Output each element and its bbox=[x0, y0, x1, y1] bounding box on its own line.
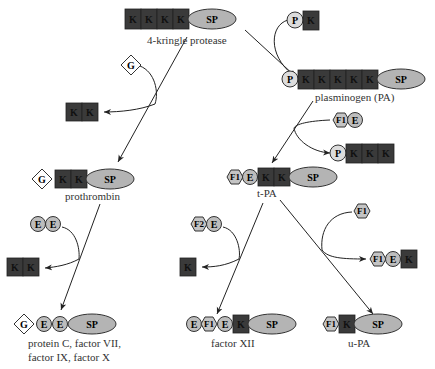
loss-arrow-k bbox=[202, 259, 239, 267]
loss-arrow-f1ek bbox=[322, 250, 366, 259]
kringle-letter: K bbox=[177, 14, 185, 25]
kringle-letter: K bbox=[27, 262, 35, 273]
module-insert-pk: P K bbox=[287, 11, 319, 30]
sp-letter: SP bbox=[104, 174, 116, 185]
connectors bbox=[45, 20, 373, 314]
label-t-pa: t-PA bbox=[257, 187, 277, 199]
module-insert-ee: E E bbox=[31, 217, 61, 232]
sp-letter: SP bbox=[206, 14, 218, 25]
arrow-4kringle-to-plasminogen bbox=[245, 30, 296, 77]
arrow-tpa-to-factor12 bbox=[217, 203, 263, 314]
kringle-letter: K bbox=[350, 74, 358, 85]
kringle-letter: K bbox=[86, 107, 94, 118]
kringle-letter: K bbox=[366, 148, 374, 159]
kringle-letter: K bbox=[343, 319, 351, 330]
label-4-kringle-protease: 4-kringle protease bbox=[147, 34, 227, 46]
kringle-letter: K bbox=[145, 14, 153, 25]
module-insert-f1e: F1 E bbox=[333, 113, 363, 128]
kringle-letter: K bbox=[11, 262, 19, 273]
gla-letter: G bbox=[38, 174, 46, 185]
module-lost-kk: K K bbox=[66, 103, 98, 121]
egf-letter: E bbox=[352, 115, 359, 126]
f1-letter: F1 bbox=[230, 172, 240, 182]
kringle-letter: K bbox=[129, 14, 137, 25]
module-lost-f1ek: F1 E K bbox=[370, 250, 417, 268]
insertion-curve-f2e bbox=[223, 227, 239, 259]
f1-letter: F1 bbox=[204, 319, 214, 329]
node-u-pa: F1 K SP u-PA bbox=[323, 314, 402, 349]
kringle-letter: K bbox=[262, 172, 270, 183]
pan-letter: P bbox=[335, 148, 341, 159]
domain-evolution-diagram: K K K K SP 4-kringle protease P K P K K … bbox=[0, 0, 435, 369]
module-insert-f2e: F2 E bbox=[191, 217, 222, 232]
label-protein-c-line1: protein C, factor VII, bbox=[28, 337, 121, 349]
arrow-plasminogen-to-tpa bbox=[272, 101, 313, 163]
sp-letter: SP bbox=[395, 74, 407, 85]
kringle-letter: K bbox=[278, 172, 286, 183]
egf-letter: E bbox=[57, 319, 64, 330]
f2-letter: F2 bbox=[194, 219, 204, 229]
f1-letter: F1 bbox=[336, 115, 346, 125]
insertion-curve-ee bbox=[62, 227, 79, 259]
f1-letter: F1 bbox=[357, 206, 367, 216]
egf-letter: E bbox=[222, 319, 229, 330]
kringle-letter: K bbox=[302, 74, 310, 85]
egf-letter: E bbox=[390, 254, 397, 265]
insertion-curve-pk bbox=[274, 20, 292, 74]
gla-letter: G bbox=[127, 60, 135, 71]
kringle-letter: K bbox=[307, 15, 315, 26]
f1-letter: F1 bbox=[326, 319, 336, 329]
module-insert-f1: F1 bbox=[354, 204, 370, 218]
sp-letter: SP bbox=[86, 319, 98, 330]
loss-arrow-kk-2 bbox=[45, 259, 79, 268]
insertion-curve-g bbox=[140, 66, 156, 104]
pan-letter: P bbox=[287, 74, 293, 85]
kringle-letter: K bbox=[237, 319, 245, 330]
kringle-letter: K bbox=[59, 174, 67, 185]
node-factor-xii: E F1 E K SP factor XII bbox=[187, 314, 297, 349]
sp-letter: SP bbox=[307, 172, 319, 183]
label-protein-c-line2: factor IX, factor X bbox=[28, 351, 110, 363]
egf-letter: E bbox=[50, 219, 57, 230]
kringle-letter: K bbox=[334, 74, 342, 85]
module-insert-g: G bbox=[121, 55, 141, 75]
kringle-letter: K bbox=[382, 148, 390, 159]
kringle-letter: K bbox=[161, 14, 169, 25]
kringle-letter: K bbox=[70, 107, 78, 118]
sp-letter: SP bbox=[266, 319, 278, 330]
pan-letter: P bbox=[292, 15, 298, 26]
kringle-letter: K bbox=[405, 254, 413, 265]
gla-letter: G bbox=[20, 319, 28, 330]
egf-letter: E bbox=[211, 219, 218, 230]
kringle-letter: K bbox=[184, 262, 192, 273]
egf-letter: E bbox=[41, 319, 48, 330]
f1-letter: F1 bbox=[373, 254, 383, 264]
node-plasminogen: P K K K K K SP plasminogen (PA) bbox=[282, 69, 425, 104]
egf-letter: E bbox=[35, 219, 42, 230]
label-prothrombin: prothrombin bbox=[65, 190, 120, 202]
node-t-pa: F1 E K K SP t-PA bbox=[227, 167, 337, 199]
label-plasminogen: plasminogen (PA) bbox=[315, 91, 395, 104]
egf-letter: E bbox=[247, 172, 254, 183]
kringle-letter: K bbox=[318, 74, 326, 85]
module-lost-kk-2: K K bbox=[7, 258, 39, 276]
kringle-letter: K bbox=[75, 174, 83, 185]
kringle-letter: K bbox=[366, 74, 374, 85]
label-u-pa: u-PA bbox=[348, 337, 370, 349]
insertion-curve-f1 bbox=[322, 212, 352, 250]
label-factor-xii: factor XII bbox=[211, 337, 255, 349]
node-prothrombin: G K K SP prothrombin bbox=[32, 169, 134, 202]
module-lost-k: K bbox=[180, 258, 196, 276]
kringle-letter: K bbox=[350, 148, 358, 159]
egf-letter: E bbox=[191, 319, 198, 330]
module-lost-pkkk: P K K K bbox=[330, 144, 394, 163]
arrow-4kringle-to-prothrombin bbox=[118, 37, 187, 162]
loss-arrow-pkkk bbox=[294, 128, 330, 153]
sp-letter: SP bbox=[372, 319, 384, 330]
node-protein-c-factors: G E E SP protein C, factor VII, factor I… bbox=[14, 314, 121, 363]
arrow-prothrombin-to-proteinc bbox=[61, 204, 100, 310]
node-4-kringle-protease: K K K K SP 4-kringle protease bbox=[125, 9, 236, 46]
